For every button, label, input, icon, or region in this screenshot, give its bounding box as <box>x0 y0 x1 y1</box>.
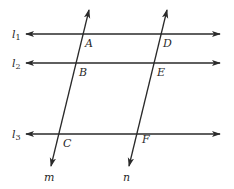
point-label-f: F <box>141 133 150 146</box>
point-label-a: A <box>84 37 93 50</box>
labels: ABCDEFl1l2l3mn <box>12 28 172 184</box>
line-label-m: m <box>44 171 54 184</box>
line-label-l2: l2 <box>12 57 21 71</box>
point-label-d: D <box>162 37 172 50</box>
diagram-canvas: ABCDEFl1l2l3mn <box>0 0 234 189</box>
line-label-n: n <box>123 171 130 184</box>
point-label-b: B <box>78 66 87 79</box>
parallel-lines-diagram: ABCDEFl1l2l3mn <box>0 0 234 189</box>
point-label-c: C <box>63 137 72 150</box>
line-label-l3: l3 <box>12 128 21 142</box>
point-label-e: E <box>156 66 165 79</box>
horizontal-lines <box>26 34 220 134</box>
line-label-l1: l1 <box>12 28 21 42</box>
